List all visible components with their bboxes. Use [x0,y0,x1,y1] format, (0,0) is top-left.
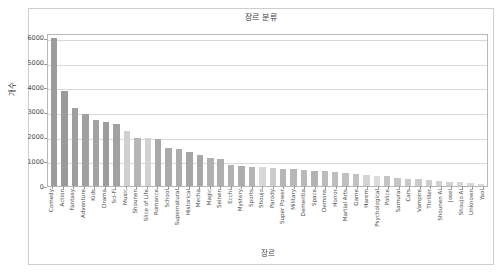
x-tick-label: Shounen Ai [438,189,444,221]
y-tick-label: 3000 [18,109,44,116]
x-tick-slot: Military [289,189,300,245]
bar [249,167,255,186]
x-tick-label: Adventure [81,189,87,218]
x-tick-slot: Space [310,189,321,245]
chart-figure: 장르 분류 개수 0100020003000400050006000 Comed… [0,0,502,273]
bar [103,122,109,186]
x-tick-label: Fantasy [70,189,76,211]
x-tick-label: Kids [91,189,97,201]
bar [145,138,151,186]
bar [61,91,67,186]
x-tick-label: Shoujo [259,189,265,208]
bar-slot [288,35,298,186]
bar [113,124,119,186]
x-tick-label: Horror [333,189,339,207]
x-tick-slot: Romance [152,189,163,245]
x-tick-slot: Shounen Ai [436,189,447,245]
bar [270,168,276,186]
x-tick-label: Cars [406,189,412,202]
x-tick-slot: Harem [362,189,373,245]
x-tick-label: Romance [154,189,160,215]
bar [353,174,359,186]
bar-slot [309,35,319,186]
y-tick-label: 5000 [18,60,44,67]
bar [405,179,411,186]
bar-slot [392,35,402,186]
bar [301,170,307,186]
bar [155,139,161,186]
x-tick-label: Dementia [301,189,307,216]
bar [176,149,182,186]
bar [363,175,369,186]
bar [82,114,88,186]
bar-slot [195,35,205,186]
bar-slot [205,35,215,186]
bar [322,171,328,186]
bar [415,179,421,186]
bar [238,166,244,186]
x-tick-label: Magic [207,189,213,205]
bar [228,165,234,186]
chart-title: 장르 분류 [28,11,494,22]
x-tick-label: Slice of Life [144,189,150,221]
x-tick-slot: Yaoi [478,189,489,245]
x-tick-slot: Psychological [373,189,384,245]
bar-slot [111,35,121,186]
bar-slot [226,35,236,186]
bars-container [48,35,487,186]
x-tick-slot: Samurai [394,189,405,245]
bar [134,138,140,186]
x-axis-label: 장르 [47,247,488,258]
x-tick-slot: Fantasy [68,189,79,245]
x-tick-label: Parody [270,189,276,208]
x-tick-label: Harem [364,189,370,208]
x-tick-slot: Cars [404,189,415,245]
x-tick-slot: Dementia [299,189,310,245]
x-tick-label: Samurai [396,189,402,212]
bar-slot [299,35,309,186]
x-tick-label: Mecha [196,189,202,207]
bar [51,38,57,186]
bar [342,173,348,186]
x-tick-label: Mystery [238,189,244,211]
bar-slot [257,35,267,186]
bar-slot [80,35,90,186]
y-axis-label: 개수 [6,82,17,96]
x-tick-slot: Music [121,189,132,245]
x-tick-slot: Martial Arts [341,189,352,245]
bar-slot [340,35,350,186]
x-tick-label: Super Power [280,189,286,224]
bar-slot [455,35,465,186]
x-tick-slot: Shounen [131,189,142,245]
x-tick-slot: Unknown [467,189,478,245]
bar-slot [372,35,382,186]
x-tick-slot: Thriller [425,189,436,245]
x-tick-label: Sports [249,189,255,207]
x-tick-slot: Supernatural [173,189,184,245]
x-tick-slot: Vampire [415,189,426,245]
y-tick-label: 6000 [18,35,44,42]
x-tick-label: Comedy [49,189,55,212]
bar [197,155,203,186]
x-tick-slot: Magic [205,189,216,245]
x-tick-label: Ecchi [228,189,234,204]
bar-slot [268,35,278,186]
x-tick-label: Game [354,189,360,206]
x-tick-label: Historical [186,189,192,215]
bar [124,131,130,186]
x-tick-label: Music [123,189,129,205]
x-tick-label: Unknown [469,189,475,215]
x-tick-label: Shounen [133,189,139,214]
y-tick-label: 0 [18,184,44,191]
bar [384,176,390,186]
bar-slot [320,35,330,186]
x-tick-slot: Josei [446,189,457,245]
x-tick-label: Space [312,189,318,206]
y-tick-label: 2000 [18,134,44,141]
bar [217,159,223,186]
bar [186,152,192,186]
x-tick-slot: Game [352,189,363,245]
bar-slot [143,35,153,186]
bar-slot [59,35,69,186]
x-tick-slot: Shoujo Ai [457,189,468,245]
